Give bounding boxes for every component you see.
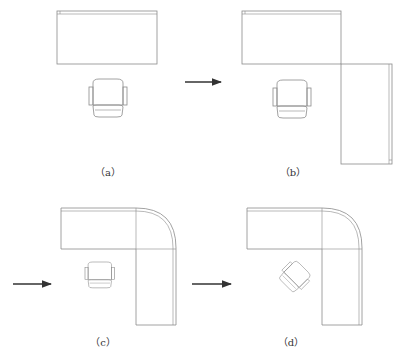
- desk-d: [247, 208, 362, 325]
- desk-a: [57, 11, 157, 64]
- desk-b-side: [341, 64, 392, 164]
- panel-b: [242, 11, 392, 164]
- label-a: （a）: [95, 164, 121, 179]
- panel-d: [247, 208, 362, 325]
- panel-c: [61, 208, 176, 325]
- label-c: （c）: [90, 334, 116, 349]
- desk-c: [61, 208, 176, 325]
- chair-b: [273, 80, 311, 118]
- furniture-layout-diagram: [0, 0, 401, 354]
- label-b: （b）: [280, 164, 306, 179]
- panel-a: [57, 11, 157, 117]
- chair-d: [276, 258, 313, 295]
- desk-b-top: [242, 11, 341, 64]
- chair-a: [89, 79, 127, 117]
- chair-c: [85, 262, 115, 288]
- label-d: （d）: [278, 334, 304, 349]
